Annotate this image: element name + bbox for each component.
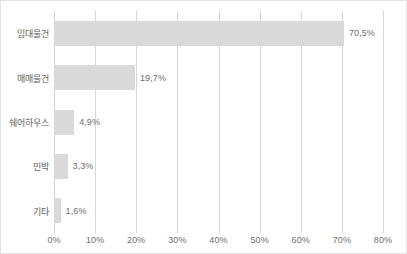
- bar-value-label: 4,9%: [79, 117, 100, 127]
- x-tick-label-60: 60%: [292, 235, 310, 245]
- bar-5: [54, 198, 61, 223]
- bar-value-label: 3,3%: [73, 161, 94, 171]
- x-tick-label-70: 70%: [333, 235, 351, 245]
- x-tick-label-40: 40%: [209, 235, 227, 245]
- x-axis-tick-labels: 0%10%20%30%40%50%60%70%80%: [54, 235, 383, 251]
- x-tick-label-50: 50%: [250, 235, 268, 245]
- category-label-5: 기타: [1, 204, 49, 217]
- category-label-1: 임대물건: [1, 27, 49, 40]
- x-tick-label-0: 0%: [47, 235, 60, 245]
- bar-value-label: 70,5%: [349, 28, 375, 38]
- bar-3: [54, 110, 74, 135]
- category-label-4: 민박: [1, 160, 49, 173]
- bar-value-label: 1,6%: [66, 206, 87, 216]
- x-tick-label-80: 80%: [374, 235, 392, 245]
- plot-area: 70,5%19,7%4,9%3,3%1,6%: [54, 11, 383, 233]
- bar-row: 19,7%: [54, 65, 383, 90]
- y-axis-category-labels: 임대물건매매물건쉐어하우스민박기타: [1, 11, 49, 233]
- gridline-80: [383, 11, 384, 233]
- x-tick-label-10: 10%: [86, 235, 104, 245]
- bar-chart: 70,5%19,7%4,9%3,3%1,6% 임대물건매매물건쉐어하우스민박기타…: [0, 0, 407, 254]
- bar-1: [54, 21, 344, 46]
- bar-row: 70,5%: [54, 21, 383, 46]
- category-label-2: 매매물건: [1, 71, 49, 84]
- bar-4: [54, 154, 68, 179]
- bar-row: 4,9%: [54, 110, 383, 135]
- category-label-3: 쉐어하우스: [1, 116, 49, 129]
- x-tick-label-30: 30%: [168, 235, 186, 245]
- bar-2: [54, 65, 135, 90]
- bar-row: 3,3%: [54, 154, 383, 179]
- bar-value-label: 19,7%: [140, 73, 166, 83]
- bar-row: 1,6%: [54, 198, 383, 223]
- x-tick-label-20: 20%: [127, 235, 145, 245]
